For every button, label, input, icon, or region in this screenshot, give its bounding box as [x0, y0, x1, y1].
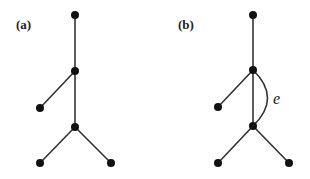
edge: [253, 126, 289, 163]
node: [71, 11, 79, 19]
edge-label-e: e: [273, 90, 280, 107]
node: [249, 66, 257, 74]
panel-a-label: (a): [16, 17, 31, 32]
edge: [218, 70, 253, 107]
panel-b-label: (b): [178, 17, 194, 32]
edge: [75, 127, 111, 163]
node: [36, 159, 44, 167]
node: [71, 123, 79, 131]
panel-a: (a): [16, 11, 115, 167]
node: [71, 67, 79, 75]
node: [214, 103, 222, 111]
node: [107, 159, 115, 167]
edge: [218, 126, 253, 163]
edge: [40, 127, 75, 163]
curved-edge-e: [253, 70, 268, 126]
node: [214, 159, 222, 167]
node: [249, 11, 257, 19]
edge: [40, 71, 75, 108]
node: [285, 159, 293, 167]
node: [249, 122, 257, 130]
graph-figure: (a) (b) e: [0, 0, 310, 179]
node: [36, 104, 44, 112]
panel-b: (b) e: [178, 11, 293, 167]
figure: (a) (b) e: [0, 0, 310, 179]
